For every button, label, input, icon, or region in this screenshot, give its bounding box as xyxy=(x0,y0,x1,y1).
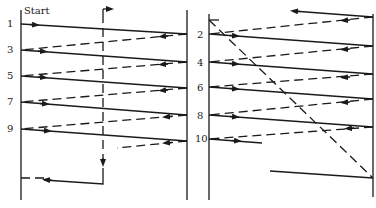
row-label-2: 2 xyxy=(197,29,203,40)
left-bottom-return xyxy=(44,175,103,184)
left-solid-line-1 xyxy=(21,24,187,34)
right-dashed-return-4 xyxy=(209,99,373,115)
left-solid-line-3 xyxy=(21,50,187,62)
row-label-8: 8 xyxy=(197,110,203,121)
left-solid-line-5 xyxy=(21,76,187,88)
row-label-1: 1 xyxy=(7,18,13,29)
row-label-5: 5 xyxy=(7,70,13,81)
row-label-4: 4 xyxy=(197,57,203,68)
row-label-10: 10 xyxy=(195,133,208,144)
left-dashed-return-5 xyxy=(117,141,187,148)
row-label-3: 3 xyxy=(7,44,13,55)
right-dashed-return-2 xyxy=(209,46,373,62)
right-top-partial-line xyxy=(293,11,373,17)
row-label-7: 7 xyxy=(7,96,13,107)
start-label: Start xyxy=(24,5,50,16)
row-label-9: 9 xyxy=(7,123,13,134)
zigzag-scan-diagram: Start 1 3 5 7 9 2 4 6 8 10 xyxy=(0,0,376,208)
left-dashed-return-4 xyxy=(21,115,187,129)
right-bottom-solid-line xyxy=(270,171,373,178)
right-dashed-return-3 xyxy=(209,74,373,87)
row-label-6: 6 xyxy=(197,82,203,93)
